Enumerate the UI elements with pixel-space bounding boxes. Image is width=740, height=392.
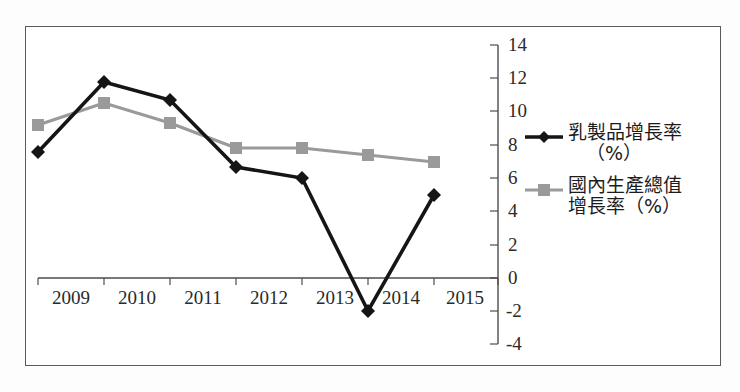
y-tick-label-14: 14 <box>508 35 527 54</box>
x-tick-label-2015: 2015 <box>432 288 498 307</box>
y-tick-label-10: 10 <box>508 101 527 120</box>
legend-entry-dairy[interactable]: 乳製品增長率 （%） <box>524 122 714 165</box>
y-tick-label-4: 4 <box>508 201 518 220</box>
legend-label-gdp-unit: 增長率（%） <box>568 196 714 217</box>
x-tick-label-2011: 2011 <box>170 288 236 307</box>
y-tick-label-neg2: -2 <box>506 301 522 320</box>
chart-legend: 乳製品增長率 （%） 國內生產總值 增長率（%） <box>524 122 714 227</box>
chart-figure: 14 12 10 8 6 4 2 0 -2 -4 2009 2010 2011 … <box>0 0 740 392</box>
x-tick-label-2014: 2014 <box>368 288 434 307</box>
legend-entry-gdp[interactable]: 國內生產總值 增長率（%） <box>524 175 714 218</box>
y-tick-label-neg4: -4 <box>506 334 522 353</box>
legend-marker-square-icon <box>524 183 564 197</box>
x-tick-label-2013: 2013 <box>302 288 368 307</box>
x-tick-label-2012: 2012 <box>236 288 302 307</box>
legend-marker-diamond-icon <box>524 130 564 144</box>
x-tick-label-2010: 2010 <box>104 288 170 307</box>
legend-label-gdp: 國內生產總值 <box>568 175 714 196</box>
y-tick-label-8: 8 <box>508 135 518 154</box>
y-tick-label-12: 12 <box>508 68 527 87</box>
y-tick-label-2: 2 <box>508 235 518 254</box>
y-tick-label-0: 0 <box>508 268 518 287</box>
legend-label-dairy: 乳製品增長率 <box>568 122 714 143</box>
legend-label-dairy-unit: （%） <box>586 143 714 164</box>
x-tick-label-2009: 2009 <box>38 288 104 307</box>
y-tick-label-6: 6 <box>508 168 518 187</box>
